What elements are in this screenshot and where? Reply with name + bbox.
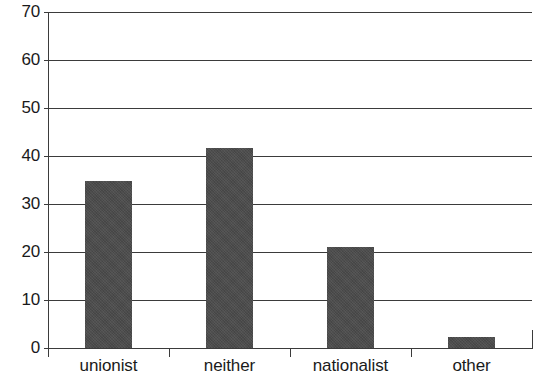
gridline — [48, 60, 532, 61]
y-axis-tick — [44, 348, 51, 349]
gridline — [48, 108, 532, 109]
x-axis-category-label: neither — [169, 356, 290, 376]
gridline — [48, 156, 532, 157]
y-axis-tick-label: 60 — [2, 51, 40, 68]
bar — [327, 247, 374, 348]
bar-chart: 010203040506070 unionistneithernationali… — [0, 0, 542, 382]
bar — [448, 337, 495, 348]
y-axis-tick-label: 20 — [2, 243, 40, 260]
x-axis-category-label: other — [411, 356, 532, 376]
plot-area — [48, 12, 532, 348]
gridline — [48, 12, 532, 13]
x-axis-right-end — [532, 330, 533, 349]
y-axis-tick — [44, 156, 51, 157]
x-axis-category-label: nationalist — [290, 356, 411, 376]
y-axis-tick-label: 40 — [2, 147, 40, 164]
y-axis-tick — [44, 300, 51, 301]
y-axis-tick — [44, 60, 51, 61]
y-axis-tick-label: 70 — [2, 3, 40, 20]
y-axis-tick-label: 10 — [2, 291, 40, 308]
y-axis-tick — [44, 204, 51, 205]
y-axis-tick-label: 0 — [2, 339, 40, 356]
y-axis-labels: 010203040506070 — [0, 0, 40, 382]
y-axis-tick — [44, 252, 51, 253]
y-axis-tick — [44, 12, 51, 13]
y-axis-tick-label: 50 — [2, 99, 40, 116]
y-axis-tick-label: 30 — [2, 195, 40, 212]
x-axis-category-label: unionist — [48, 356, 169, 376]
bar — [206, 148, 253, 348]
y-axis-tick — [44, 108, 51, 109]
bar — [85, 181, 132, 348]
